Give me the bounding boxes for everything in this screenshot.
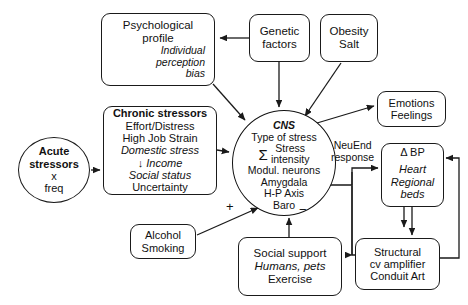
edge-chronic-to-cns — [217, 150, 229, 152]
alcohol-line1: Alcohol — [145, 229, 181, 241]
edge-label-plus: + — [226, 200, 234, 214]
node-structural-cv-amplifier: Structural cv amplifier Conduit Art — [355, 238, 440, 290]
cns-title: CNS — [273, 120, 295, 132]
alcohol-line2: Smoking — [142, 242, 185, 254]
chronic-line1: Effort/Distress — [126, 120, 195, 132]
node-social-support: Social support Humans, pets Exercise — [238, 237, 342, 296]
node-acute-stressors: Acute stressors x freq — [18, 137, 90, 203]
emotions-line1: Emotions — [389, 97, 435, 109]
acute-line4: freq — [45, 182, 64, 194]
dbp-line1: Δ BP — [400, 146, 424, 158]
edge-obesity-to-cns — [305, 63, 341, 116]
dbp-line2: Heart — [399, 163, 426, 175]
node-delta-bp: Δ BP Heart Regional beds — [381, 143, 444, 207]
psych-profile-line5: bias — [186, 68, 209, 80]
obesity-line2: Salt — [339, 38, 359, 51]
dbp-line4: beds — [401, 188, 425, 200]
node-emotions-feelings: Emotions Feelings — [377, 91, 446, 127]
dbp-line3: Regional — [391, 176, 434, 188]
psych-profile-line2: profile — [107, 32, 209, 45]
node-obesity-salt: Obesity Salt — [320, 14, 378, 62]
node-psychological-profile: Psychological profile Individual percept… — [101, 13, 215, 86]
edge-cns-to-dbp — [330, 168, 378, 185]
psych-profile-line1: Psychological — [107, 19, 209, 32]
cns-line7: Baro — [273, 200, 295, 212]
psych-profile-line3: Individual — [161, 45, 209, 57]
node-alcohol-smoking: Alcohol Smoking — [130, 224, 196, 259]
node-chronic-stressors: Chronic stressors Effort/Distress High J… — [103, 106, 217, 195]
node-cns: CNS Type of stress Σ Stress intensity Mo… — [232, 110, 336, 216]
acute-line2: stressors — [29, 158, 79, 170]
structural-line3: Conduit Art — [370, 270, 424, 282]
edge-psych-to-cns — [213, 84, 245, 120]
emotions-line2: Feelings — [391, 109, 433, 121]
neuend-line1: NeuEnd — [334, 139, 372, 151]
acute-line3: x — [51, 170, 57, 182]
chronic-title: Chronic stressors — [113, 107, 207, 119]
social-line3: Exercise — [268, 273, 312, 286]
chronic-line6: Uncertainty — [132, 181, 188, 193]
neuend-line2: response — [331, 151, 374, 163]
stress-pathway-diagram: Psychological profile Individual percept… — [0, 0, 468, 305]
chronic-line4: ↓ Income — [138, 157, 183, 169]
cns-line4: Modul. neurons — [248, 165, 320, 177]
social-line1: Social support — [254, 247, 327, 260]
sigma-symbol: Σ — [259, 147, 268, 162]
genetic-line2: factors — [262, 38, 297, 51]
social-line2: Humans, pets — [255, 260, 326, 273]
chronic-line2: High Job Strain — [122, 132, 197, 144]
cns-sigma-row: Σ Stress intensity — [259, 143, 310, 165]
node-genetic-factors: Genetic factors — [249, 14, 310, 62]
edge-label-minus: − — [299, 203, 307, 217]
edge-label-neuend-response: NeuEnd response — [331, 140, 374, 163]
chronic-line3: Domestic stress — [121, 144, 199, 156]
obesity-line1: Obesity — [330, 25, 369, 38]
structural-line2: cv amplifier — [370, 258, 426, 270]
genetic-line1: Genetic — [260, 25, 300, 38]
acute-line1: Acute — [39, 145, 70, 157]
chronic-line5: Social status — [129, 169, 191, 181]
structural-line1: Structural — [374, 246, 421, 258]
